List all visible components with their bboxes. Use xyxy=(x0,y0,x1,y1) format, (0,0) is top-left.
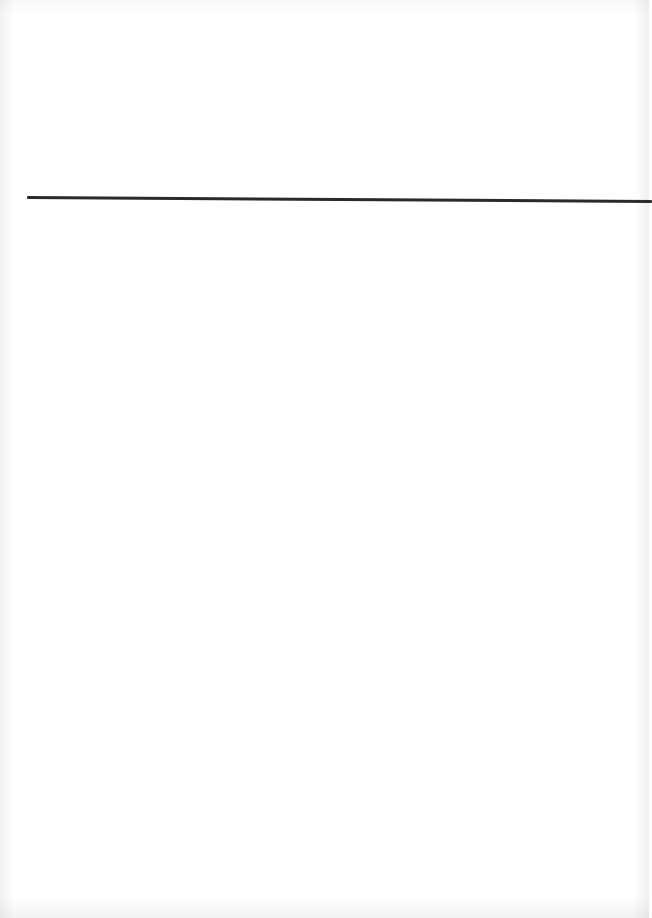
horizontal-rule xyxy=(27,196,652,203)
